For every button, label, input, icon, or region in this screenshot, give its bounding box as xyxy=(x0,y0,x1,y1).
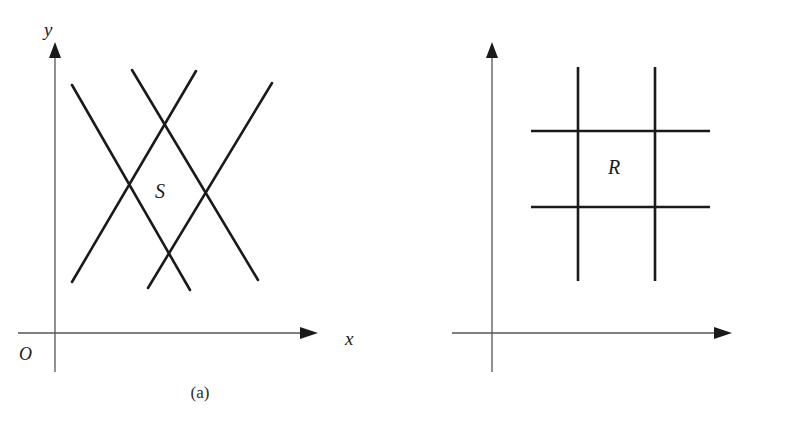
y-axis-arrowhead xyxy=(49,42,61,58)
x-axis-arrowhead xyxy=(300,327,318,339)
figure-container: y x O S (a) v u O R (b) xyxy=(0,0,797,427)
x-axis-label: x xyxy=(345,329,353,348)
v-axis-arrowhead xyxy=(486,42,498,58)
panel-b-canvas xyxy=(400,0,797,427)
y-axis-label: y xyxy=(44,20,52,39)
panel-b-uv-plane: v u O R (b) xyxy=(400,0,797,427)
caption-a: (a) xyxy=(150,384,250,401)
panel-a-axes xyxy=(18,42,318,372)
boundary-line-descending-left xyxy=(72,85,190,290)
boundary-line-ascending-left xyxy=(72,71,196,282)
panel-a-region-boundary-lines xyxy=(72,70,272,290)
region-label-s: S xyxy=(155,181,165,201)
panel-a-xy-plane: y x O S (a) xyxy=(0,0,400,427)
panel-b-region-boundary-lines xyxy=(531,67,710,281)
u-axis-arrowhead xyxy=(714,327,732,339)
origin-label-a: O xyxy=(19,345,32,363)
boundary-line-ascending-right xyxy=(148,83,272,288)
region-label-r: R xyxy=(608,157,620,177)
panel-a-canvas xyxy=(0,0,400,427)
boundary-line-descending-right xyxy=(132,70,258,280)
